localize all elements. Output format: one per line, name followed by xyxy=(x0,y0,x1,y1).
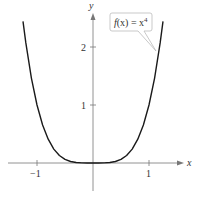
x-tick-label-1: 1 xyxy=(146,168,151,179)
function-graph: x −1 1 y 1 2 f(x) = x4 xyxy=(0,0,198,199)
x-axis-arrow-icon xyxy=(177,161,184,166)
x-tick-label-neg1: −1 xyxy=(30,168,41,179)
x-axis-label: x xyxy=(186,157,192,168)
y-tick-label-2: 2 xyxy=(81,42,86,53)
y-tick-label-1: 1 xyxy=(81,100,86,111)
y-axis-label: y xyxy=(88,0,94,11)
y-axis-arrow-icon xyxy=(91,13,96,20)
callout-label: f(x) = x4 xyxy=(114,16,148,29)
function-callout: f(x) = x4 xyxy=(110,13,156,51)
x-axis: x −1 1 xyxy=(8,157,192,179)
